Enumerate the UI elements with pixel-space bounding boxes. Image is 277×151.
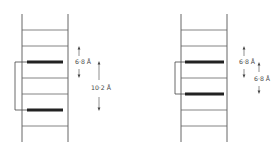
right-spacing-lower-annotation: 6·8 Å — [254, 62, 271, 94]
arrow-head-up-icon — [243, 46, 246, 50]
left-spacing-small-label: 6·8 Å — [75, 58, 92, 65]
arrow-head-down-icon — [243, 75, 246, 79]
left-spacing-small-annotation: 6·8 Å — [75, 46, 92, 78]
arrow-head-up-icon — [98, 61, 101, 65]
arrow-head-down-icon — [98, 108, 101, 112]
arrow-head-down-icon — [258, 91, 261, 95]
left-ladder: 6·8 Å 10·2 Å — [15, 14, 112, 142]
left-spacing-large-annotation: 10·2 Å — [91, 61, 112, 111]
left-ladder-bracket — [15, 62, 27, 110]
arrow-head-up-icon — [78, 46, 81, 50]
right-ladder: 6·8 Å 6·8 Å — [175, 14, 271, 142]
arrow-head-up-icon — [258, 62, 261, 66]
right-spacing-upper-annotation: 6·8 Å — [239, 46, 256, 78]
stacking-diagram: 6·8 Å 10·2 Å 6·8 Å — [0, 0, 277, 151]
right-spacing-lower-label: 6·8 Å — [254, 75, 271, 82]
arrow-head-down-icon — [78, 75, 81, 79]
left-spacing-large-label: 10·2 Å — [91, 84, 112, 91]
right-spacing-upper-label: 6·8 Å — [239, 58, 256, 65]
